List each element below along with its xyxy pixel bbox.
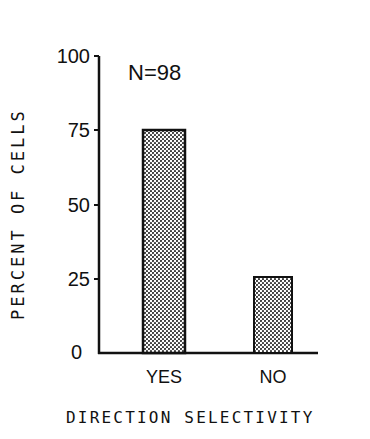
sample-size-annotation: N=98 (128, 60, 181, 86)
y-tick-label-0: 0 (71, 341, 82, 363)
y-axis-label: PERCENT OF CELLS (8, 108, 28, 320)
y-tick-label-50: 50 (68, 194, 90, 216)
bar-chart: 100 75 50 25 0 YES NO (0, 0, 370, 439)
bar-no (254, 277, 292, 353)
y-tick-label-100: 100 (57, 45, 90, 67)
category-label-yes: YES (146, 367, 182, 387)
category-label-no: NO (260, 367, 287, 387)
y-tick-label-75: 75 (68, 119, 90, 141)
y-tick-label-25: 25 (68, 268, 90, 290)
bar-yes (143, 130, 185, 353)
x-axis-label: DIRECTION SELECTIVITY (66, 408, 315, 427)
